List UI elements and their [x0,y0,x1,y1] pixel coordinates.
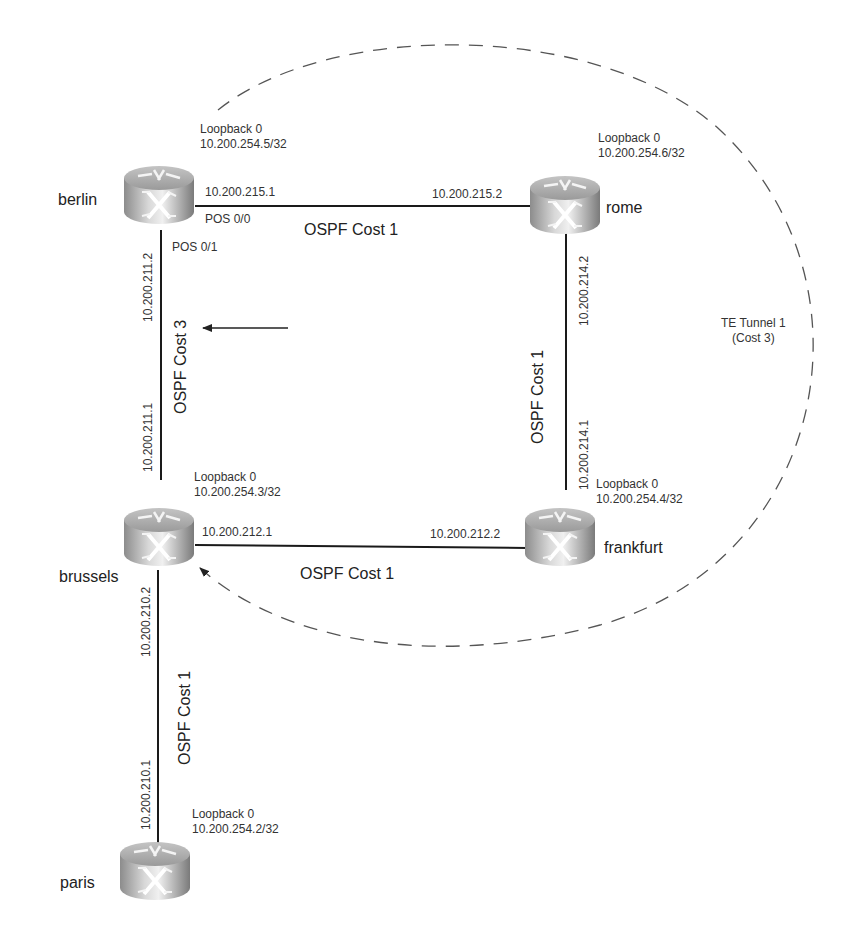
loopback-label: Loopback 0 [598,131,685,146]
te-tunnel-title: TE Tunnel 1 [721,316,786,331]
ip-berlin-rome-a: 10.200.215.1 [205,185,275,199]
router-icon-rome [530,176,600,234]
loopback-frankfurt: Loopback 0 10.200.254.4/32 [596,477,683,507]
network-diagram [0,0,862,945]
ip-berlin-rome-b: 10.200.215.2 [432,187,502,201]
loopback-berlin: Loopback 0 10.200.254.5/32 [200,122,287,152]
loopback-ip: 10.200.254.4/32 [596,492,683,507]
loopback-brussels: Loopback 0 10.200.254.3/32 [194,470,281,500]
te-tunnel-label: TE Tunnel 1 (Cost 3) [721,316,786,346]
router-icon-berlin [124,166,194,224]
ip-brussels-frankfurt-b: 10.200.212.2 [430,527,500,541]
ip-berlin-brussels-a: 10.200.211.2 [141,253,155,322]
interface-berlin-pos00: POS 0/0 [205,212,250,226]
cost-berlin-rome: OSPF Cost 1 [304,221,398,239]
cost-brussels-frankfurt: OSPF Cost 1 [300,565,394,583]
router-name-rome: rome [606,199,642,217]
interface-berlin-pos01: POS 0/1 [172,240,217,254]
link-brussels-frankfurt [195,545,527,548]
ip-brussels-paris-a: 10.200.210.2 [139,587,153,657]
ip-brussels-frankfurt-a: 10.200.212.1 [202,525,272,539]
loopback-ip: 10.200.254.3/32 [194,485,281,500]
loopback-label: Loopback 0 [200,122,287,137]
loopback-rome: Loopback 0 10.200.254.6/32 [598,131,685,161]
ip-berlin-brussels-b: 10.200.211.1 [141,403,155,472]
router-icon-paris [120,842,190,900]
te-tunnel-cost: (Cost 3) [721,331,786,346]
loopback-ip: 10.200.254.5/32 [200,137,287,152]
cost-rome-frankfurt: OSPF Cost 1 [529,350,547,444]
router-icon-brussels [124,508,194,566]
router-name-berlin: berlin [58,191,97,209]
ip-rome-frankfurt-b: 10.200.214.1 [577,420,591,490]
loopback-label: Loopback 0 [192,807,279,822]
router-name-brussels: brussels [59,568,119,586]
cost-brussels-paris: OSPF Cost 1 [176,671,194,765]
loopback-label: Loopback 0 [194,470,281,485]
cost-berlin-brussels: OSPF Cost 3 [172,320,190,414]
loopback-ip: 10.200.254.2/32 [192,822,279,837]
ip-brussels-paris-b: 10.200.210.1 [139,760,153,830]
loopback-paris: Loopback 0 10.200.254.2/32 [192,807,279,837]
loopback-label: Loopback 0 [596,477,683,492]
router-name-frankfurt: frankfurt [604,539,663,557]
loopback-ip: 10.200.254.6/32 [598,146,685,161]
ip-rome-frankfurt-a: 10.200.214.2 [577,256,591,326]
router-icon-frankfurt [525,508,595,566]
router-name-paris: paris [60,874,95,892]
